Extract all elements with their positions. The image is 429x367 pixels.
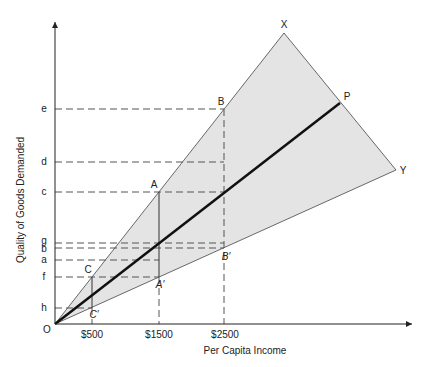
label-b: B [218,96,225,107]
shaded-wedge [55,33,396,324]
x-tick-labels: $500 $1500 $2500 [81,329,239,340]
svg-text:$500: $500 [81,329,104,340]
income-quality-diagram: e d c g b a f h $500 $1500 $2500 O Per C… [0,0,429,367]
y-tick-labels: e d c g b a f h [41,103,47,313]
svg-text:c: c [42,186,47,197]
svg-text:f: f [43,271,46,282]
svg-text:$2500: $2500 [211,329,239,340]
label-a: A [151,179,158,190]
label-c-prime: C′ [89,309,99,320]
svg-text:b: b [41,243,47,254]
svg-text:$1500: $1500 [145,329,173,340]
label-c: C [84,264,91,275]
svg-text:a: a [41,254,47,265]
label-b-prime: B′ [222,251,232,262]
label-y: Y [400,165,407,176]
label-p: P [344,91,351,102]
label-x: X [281,19,288,30]
svg-text:e: e [41,103,47,114]
x-axis-title: Per Capita Income [204,345,287,356]
svg-text:d: d [41,156,47,167]
label-a-prime: A′ [155,279,166,290]
origin-label: O [43,324,51,335]
y-axis-title: Quality of Goods Demanded [15,137,26,263]
svg-text:h: h [41,302,47,313]
